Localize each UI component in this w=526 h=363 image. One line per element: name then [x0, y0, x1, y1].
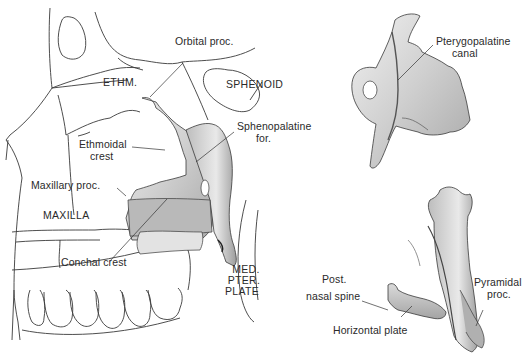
label-ethmoidal-crest-line1: Ethmoidal [79, 139, 127, 150]
label-conchal-crest: Conchal crest [61, 257, 127, 268]
palatine-bone-in-situ [126, 97, 236, 266]
label-post-nasal-spine-line2: nasal spine [306, 291, 360, 302]
label-post-nasal-spine-line1: Post. [322, 274, 346, 285]
label-orbital-proc: Orbital proc. [175, 36, 234, 47]
label-horizontal-plate: Horizontal plate [333, 325, 408, 336]
label-ethmoidal-crest-line2: crest [90, 151, 113, 162]
label-med-pter-plate-line3: PLATE [224, 286, 260, 297]
label-pterygopalatine-canal-line1: Pterygopalatine [436, 36, 510, 47]
label-maxillary-proc: Maxillary proc. [31, 180, 100, 191]
label-pyramidal-proc-line2: proc. [487, 289, 511, 300]
label-maxilla: MAXILLA [43, 210, 89, 221]
anatomical-figure: Orbital proc. ETHM. SPHENOID Sphenopalat… [0, 0, 526, 363]
label-sphenoid: SPHENOID [226, 79, 283, 90]
label-sphenopalatine-foramen-line1: Sphenopalatine [237, 121, 311, 132]
label-sphenopalatine-foramen-line2: for. [256, 133, 271, 144]
label-pterygopalatine-canal-line2: canal [452, 48, 478, 59]
label-ethmoid: ETHM. [103, 77, 137, 88]
label-pyramidal-proc-line1: Pyramidal [474, 277, 522, 288]
